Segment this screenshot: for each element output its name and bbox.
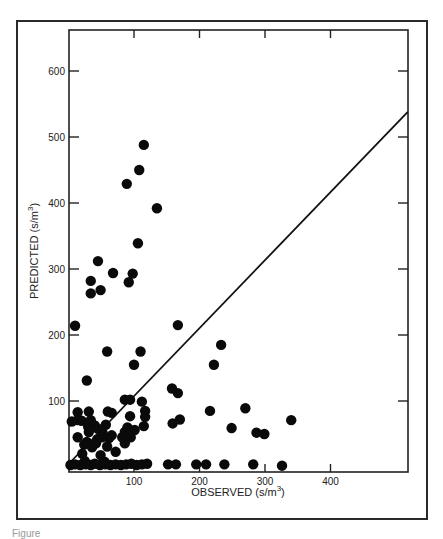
data-point <box>70 321 80 331</box>
data-point <box>107 408 117 418</box>
y-tick-label: 400 <box>48 198 65 209</box>
y-tick-label: 300 <box>48 264 65 275</box>
data-points <box>65 140 296 471</box>
y-tick-label: 500 <box>48 132 65 143</box>
data-point <box>226 423 236 433</box>
data-point <box>134 165 144 175</box>
data-point <box>277 460 287 470</box>
data-point <box>191 459 201 469</box>
data-point <box>139 421 149 431</box>
data-point <box>82 375 92 385</box>
data-point <box>129 360 139 370</box>
data-point <box>107 430 117 440</box>
plot-area <box>69 30 408 472</box>
data-point <box>120 438 130 448</box>
data-point <box>95 285 105 295</box>
data-point <box>286 415 296 425</box>
y-tick-label: 600 <box>48 66 65 77</box>
x-axis-title: OBSERVED (s/m3) <box>191 484 285 498</box>
data-point <box>122 179 132 189</box>
data-point <box>137 396 147 406</box>
data-point <box>92 434 102 444</box>
data-point <box>142 459 152 469</box>
data-point <box>140 412 150 422</box>
y-tick-label: 200 <box>48 330 65 341</box>
data-point <box>108 268 118 278</box>
data-point <box>135 346 145 356</box>
data-point <box>86 276 96 286</box>
data-point <box>219 459 229 469</box>
data-point <box>173 388 183 398</box>
data-point <box>259 429 269 439</box>
data-point <box>240 403 250 413</box>
data-point <box>125 411 135 421</box>
data-point <box>205 406 215 416</box>
data-point <box>152 203 162 213</box>
data-point <box>139 140 149 150</box>
data-point <box>133 238 143 248</box>
data-point <box>102 346 112 356</box>
data-point <box>209 360 219 370</box>
data-point <box>248 459 258 469</box>
data-point <box>93 256 103 266</box>
data-point <box>124 277 134 287</box>
data-point <box>173 320 183 330</box>
data-point <box>84 406 94 416</box>
data-point <box>110 447 120 457</box>
data-point <box>84 427 94 437</box>
x-tick-label: 100 <box>126 476 143 487</box>
axis-ticks <box>69 30 408 472</box>
data-point <box>201 459 211 469</box>
x-tick-label: 400 <box>322 476 339 487</box>
data-point <box>216 340 226 350</box>
y-axis-title: PREDICTED (s/m3) <box>26 203 40 299</box>
data-point <box>86 288 96 298</box>
data-point <box>125 394 135 404</box>
data-point <box>175 414 185 424</box>
figure-caption: Figure <box>12 528 40 539</box>
y-tick-label: 100 <box>48 396 65 407</box>
data-point <box>171 459 181 469</box>
regression-line <box>72 112 408 461</box>
